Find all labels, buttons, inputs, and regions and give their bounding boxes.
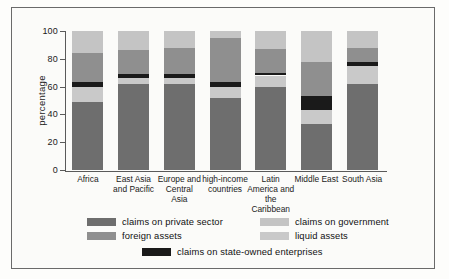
bar-segment[interactable]: [255, 76, 286, 87]
y-tick-mark: [60, 31, 65, 32]
bar-segment[interactable]: [164, 78, 195, 84]
bar-group[interactable]: Africa: [72, 31, 103, 170]
legend-swatch: [260, 232, 289, 240]
bar-segment[interactable]: [164, 48, 195, 74]
legend-swatch: [260, 218, 289, 226]
bar-segment[interactable]: [118, 84, 149, 170]
bar-segment[interactable]: [210, 98, 241, 170]
bar-segment[interactable]: [347, 84, 378, 170]
x-axis-category-label: South Asia: [330, 174, 394, 184]
bar-segment[interactable]: [255, 87, 286, 170]
bar-segment[interactable]: [301, 96, 332, 110]
y-tick-label: 20: [48, 137, 58, 147]
stacked-bar[interactable]: [164, 31, 195, 170]
bar-group[interactable]: East Asiaand Pacific: [118, 31, 149, 170]
bar-segment[interactable]: [255, 49, 286, 73]
y-tick-mark: [60, 170, 65, 171]
legend-label: liquid assets: [295, 230, 348, 241]
legend-item[interactable]: claims on government: [260, 216, 389, 227]
y-tick-label: 40: [48, 109, 58, 119]
bar-segment[interactable]: [347, 62, 378, 66]
legend-item[interactable]: liquid assets: [260, 230, 348, 241]
legend-item[interactable]: foreign assets: [87, 230, 182, 241]
bar-group[interactable]: Europe andCentralAsia: [164, 31, 195, 170]
bar-segment[interactable]: [118, 78, 149, 84]
bar-segment[interactable]: [210, 87, 241, 98]
bar-segment[interactable]: [347, 66, 378, 84]
chart-legend: claims on private sectorclaims on govern…: [12, 216, 412, 264]
bar-group[interactable]: South Asia: [347, 31, 378, 170]
bar-segment[interactable]: [347, 31, 378, 48]
bar-segment[interactable]: [164, 74, 195, 78]
legend-swatch: [142, 248, 171, 256]
stacked-bar[interactable]: [255, 31, 286, 170]
x-axis-line: [65, 171, 387, 172]
bar-group[interactable]: high-incomecountries: [210, 31, 241, 170]
bar-segment[interactable]: [72, 31, 103, 53]
bar-segment[interactable]: [72, 82, 103, 86]
bar-segment[interactable]: [72, 102, 103, 170]
bar-segment[interactable]: [255, 31, 286, 49]
stacked-bar[interactable]: [72, 31, 103, 170]
y-axis-title-text: percentage: [36, 75, 47, 126]
bar-segment[interactable]: [164, 31, 195, 48]
bar-segment[interactable]: [164, 84, 195, 170]
bar-group[interactable]: Middle East: [301, 31, 332, 170]
bar-segment[interactable]: [118, 31, 149, 50]
bar-segment[interactable]: [210, 82, 241, 86]
legend-label: claims on private sector: [122, 216, 223, 227]
bar-segment[interactable]: [301, 110, 332, 124]
stacked-bar[interactable]: [301, 31, 332, 170]
stacked-bar[interactable]: [210, 31, 241, 170]
bar-segment[interactable]: [301, 62, 332, 97]
bar-segment[interactable]: [210, 31, 241, 38]
bar-segment[interactable]: [118, 50, 149, 74]
stacked-bar[interactable]: [118, 31, 149, 170]
legend-item[interactable]: claims on private sector: [87, 216, 223, 227]
y-axis-title: percentage: [16, 31, 67, 170]
legend-swatch: [87, 232, 116, 240]
y-tick-mark: [60, 59, 65, 60]
bar-segment[interactable]: [255, 73, 286, 76]
legend-item[interactable]: claims on state-owned enterprises: [142, 246, 323, 257]
bar-segment[interactable]: [347, 48, 378, 62]
y-tick-mark: [60, 142, 65, 143]
bar-segment[interactable]: [301, 31, 332, 62]
bar-segment[interactable]: [301, 124, 332, 170]
bar-segment[interactable]: [118, 74, 149, 78]
bar-segment[interactable]: [72, 53, 103, 82]
y-tick-mark: [60, 87, 65, 88]
legend-swatch: [87, 218, 116, 226]
legend-label: foreign assets: [122, 230, 182, 241]
bar-segment[interactable]: [72, 87, 103, 102]
plot-area: 020406080100 AfricaEast Asiaand PacificE…: [65, 31, 385, 170]
y-tick-label: 80: [48, 54, 58, 64]
y-tick-label: 100: [42, 26, 58, 36]
bar-group[interactable]: LatinAmerica andtheCaribbean: [255, 31, 286, 170]
bar-segment[interactable]: [210, 38, 241, 82]
y-tick-mark: [60, 114, 65, 115]
y-tick-label: 60: [48, 82, 58, 92]
legend-label: claims on state-owned enterprises: [177, 246, 323, 257]
legend-label: claims on government: [295, 216, 389, 227]
chart-figure: percentage 020406080100 AfricaEast Asiaa…: [0, 0, 449, 279]
stacked-bar[interactable]: [347, 31, 378, 170]
